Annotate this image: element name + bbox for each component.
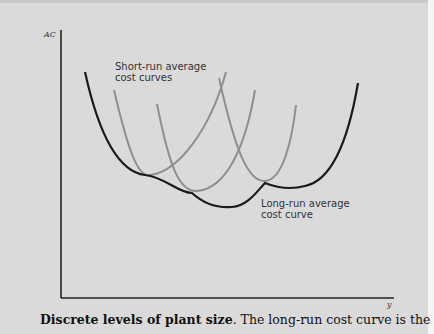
long-run-annotation-line2: cost curve bbox=[261, 209, 350, 220]
y-axis-label: AC bbox=[44, 30, 56, 39]
long-run-annotation: Long-run average cost curve bbox=[261, 198, 350, 220]
caption-title: Discrete levels of plant size bbox=[40, 312, 233, 327]
short-run-curve-2 bbox=[157, 90, 255, 191]
long-run-annotation-line1: Long-run average bbox=[261, 198, 350, 209]
short-run-annotation: Short-run average cost curves bbox=[115, 61, 206, 83]
caption-text: . The long-run cost curve is the bbox=[233, 312, 431, 327]
x-axis-label: y bbox=[387, 300, 392, 309]
figure-caption: Discrete levels of plant size. The long-… bbox=[40, 312, 430, 327]
cost-curves-diagram bbox=[0, 0, 434, 334]
short-run-annotation-line1: Short-run average bbox=[115, 61, 206, 72]
short-run-annotation-line2: cost curves bbox=[115, 72, 206, 83]
